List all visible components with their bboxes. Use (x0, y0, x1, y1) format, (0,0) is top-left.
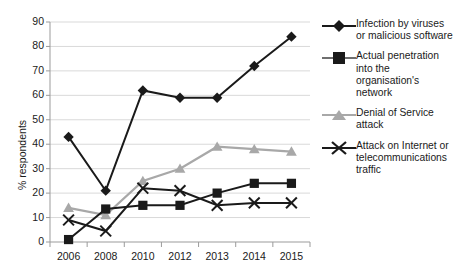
data-point-marker (250, 179, 259, 188)
x-tick-label: 2015 (266, 250, 316, 262)
data-point-marker (138, 201, 147, 210)
data-point-marker (63, 203, 74, 212)
y-tick-label: 80 (14, 39, 44, 51)
data-point-marker (175, 201, 184, 210)
y-tick-label: 40 (14, 137, 44, 149)
legend-item-telecom[interactable]: Attack on Internet or telecommunications… (322, 140, 455, 177)
data-point-marker (101, 204, 110, 213)
data-point-marker (138, 85, 148, 95)
legend-label-telecom: Attack on Internet or telecommunications… (356, 140, 455, 177)
data-point-marker (175, 93, 185, 103)
data-point-marker (63, 215, 74, 226)
legend-key-cross-icon (322, 141, 356, 155)
legend-item-dos[interactable]: Denial of Service attack (322, 107, 455, 131)
chart-container: % respondents Infection by viruses or ma… (0, 0, 457, 279)
legend-label-dos: Denial of Service attack (356, 107, 455, 131)
data-point-marker (287, 179, 296, 188)
y-tick-label: 70 (14, 64, 44, 76)
data-point-marker (100, 226, 111, 237)
y-tick-label: 60 (14, 88, 44, 100)
y-tick-label: 90 (14, 15, 44, 27)
y-tick-label: 20 (14, 186, 44, 198)
legend-item-infection[interactable]: Infection by viruses or malicious softwa… (322, 18, 455, 42)
legend-key-triangle-icon (322, 108, 356, 122)
legend-item-penetration[interactable]: Actual penetration into the organisation… (322, 50, 455, 99)
y-tick-label: 10 (14, 211, 44, 223)
legend-key-square-icon (322, 51, 356, 65)
data-point-marker (175, 163, 186, 172)
legend-label-penetration: Actual penetration into the organisation… (356, 50, 455, 99)
y-tick-label: 30 (14, 162, 44, 174)
legend-label-infection: Infection by viruses or malicious softwa… (356, 18, 455, 42)
data-point-marker (213, 189, 222, 198)
y-tick-label: 0 (14, 235, 44, 247)
y-tick-label: 50 (14, 113, 44, 125)
chart-legend: Infection by viruses or malicious softwa… (322, 18, 455, 184)
data-point-marker (64, 235, 73, 244)
legend-key-diamond-icon (322, 19, 356, 33)
